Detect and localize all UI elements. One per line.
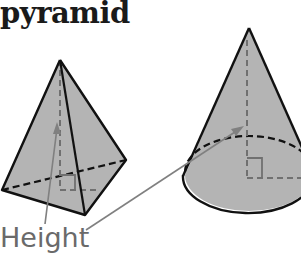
cone-figure: [183, 28, 301, 213]
pyramid-figure: [2, 60, 126, 215]
height-label: Height: [0, 222, 89, 253]
solids-diagram: [0, 0, 301, 256]
